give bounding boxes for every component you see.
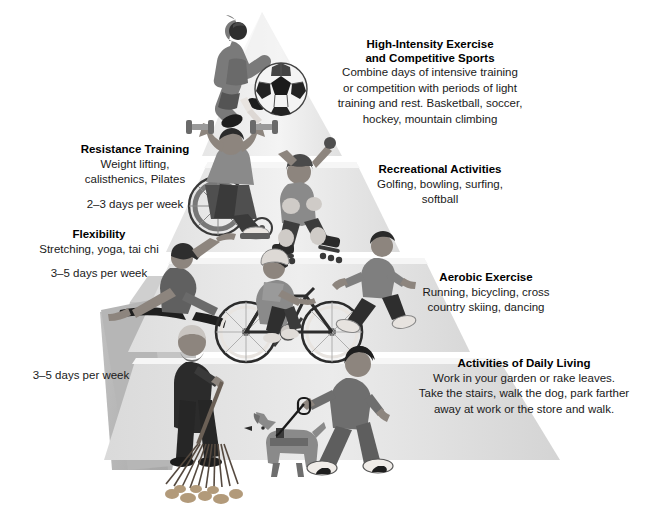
tier-body-high-intensity-l2: or competition with periods of light: [330, 81, 530, 97]
tier-frequency-flexibility: 3–5 days per week: [6, 266, 192, 282]
tier-body-flexibility-l1: Stretching, yoga, tai chi: [6, 242, 192, 258]
tier-heading-activities-of-daily-living: Activities of Daily Living: [406, 357, 642, 371]
tier-heading-resistance-training: Resistance Training: [42, 143, 228, 157]
tier-heading-high-intensity-line2: and Competitive Sports: [330, 52, 530, 66]
tier-heading-high-intensity-line1: High-Intensity Exercise: [330, 38, 530, 52]
tier-label-aerobic-exercise: Aerobic Exercise Running, bicycling, cro…: [398, 271, 574, 316]
tier-body-adl-l1: Work in your garden or rake leaves.: [406, 371, 642, 387]
tier-heading-flexibility: Flexibility: [6, 228, 192, 242]
tier-body-adl-l3: away at work or the store and walk.: [406, 402, 642, 418]
tier-heading-recreational-activities: Recreational Activities: [350, 163, 530, 177]
tier-body-recreational-l1: Golfing, bowling, surfing,: [350, 177, 530, 193]
base-frequency-text: 3–5 days per week: [6, 368, 156, 384]
tier-body-resistance-l1: Weight lifting,: [42, 157, 228, 173]
tier-body-high-intensity-l4: hockey, mountain climbing: [330, 112, 530, 128]
tier-label-activities-of-daily-living: Activities of Daily Living Work in your …: [406, 357, 642, 417]
tier-body-resistance-l2: calisthenics, Pilates: [42, 172, 228, 188]
tier-body-high-intensity-l1: Combine days of intensive training: [330, 65, 530, 81]
spacer: [42, 188, 228, 197]
tier-body-high-intensity-l3: training and rest. Basketball, soccer,: [330, 96, 530, 112]
tier-label-resistance-training: Resistance Training Weight lifting, cali…: [42, 143, 228, 212]
spacer: [6, 257, 192, 266]
tier-body-recreational-l2: softball: [350, 192, 530, 208]
tier-body-aerobic-l2: country skiing, dancing: [398, 300, 574, 316]
tier-label-recreational-activities: Recreational Activities Golfing, bowling…: [350, 163, 530, 208]
tier-heading-aerobic-exercise: Aerobic Exercise: [398, 271, 574, 285]
illustration-soccer-ball: [255, 63, 307, 116]
tier-label-flexibility: Flexibility Stretching, yoga, tai chi 3–…: [6, 228, 192, 282]
tier-label-high-intensity: High-Intensity Exercise and Competitive …: [330, 38, 530, 127]
tier-body-aerobic-l1: Running, bicycling, cross: [398, 285, 574, 301]
base-frequency-label: 3–5 days per week: [6, 368, 156, 384]
pyramid-diagram: High-Intensity Exercise and Competitive …: [0, 0, 648, 519]
tier-body-adl-l2: Take the stairs, walk the dog, park fart…: [406, 386, 642, 402]
tier-frequency-resistance-training: 2–3 days per week: [42, 197, 228, 213]
